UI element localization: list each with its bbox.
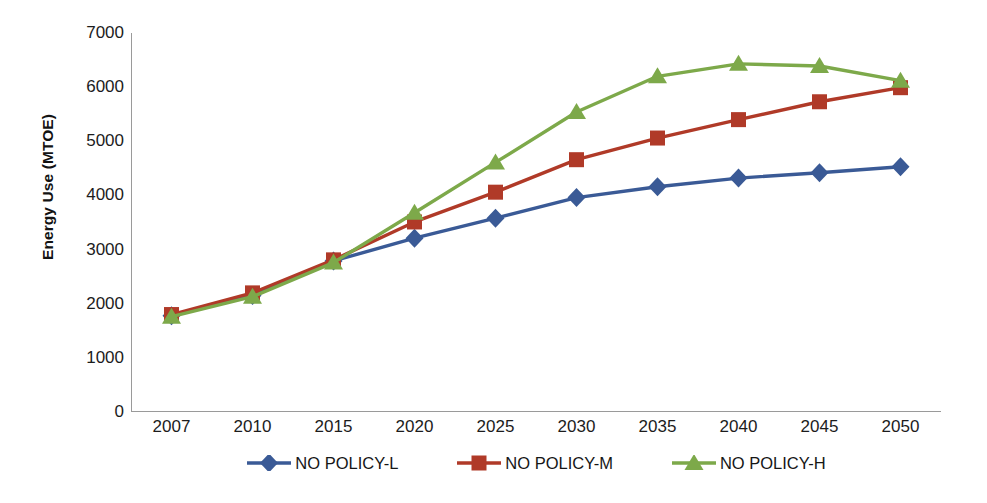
- y-tick-label: 5000: [58, 132, 124, 149]
- series-line: [172, 64, 901, 317]
- data-point-marker: [567, 103, 586, 119]
- data-point-marker: [260, 455, 278, 471]
- plot-area: [131, 33, 941, 412]
- legend-label: NO POLICY-M: [505, 454, 613, 473]
- legend-marker-triangle-icon: [671, 455, 717, 471]
- legend-marker-square-icon: [456, 455, 502, 471]
- data-point-marker: [488, 185, 503, 200]
- x-axis-tick-labels: 2007201020152020202520302035204020452050: [131, 418, 941, 448]
- y-tick-label: 6000: [58, 78, 124, 95]
- data-point-marker: [650, 131, 665, 146]
- y-tick-label: 0: [58, 403, 124, 420]
- y-tick-label: 7000: [58, 24, 124, 41]
- legend-label: NO POLICY-H: [720, 454, 826, 473]
- data-point-marker: [569, 152, 584, 167]
- x-tick-label: 2045: [775, 418, 865, 437]
- data-point-marker: [487, 209, 505, 228]
- y-axis-tick-labels: 70006000500040003000200010000: [54, 0, 124, 503]
- x-tick-label: 2015: [289, 418, 379, 437]
- x-tick-label: 2020: [370, 418, 460, 437]
- data-point-marker: [649, 177, 667, 196]
- x-tick-label: 2035: [613, 418, 703, 437]
- data-point-marker: [472, 456, 487, 471]
- legend-marker-diamond-icon: [246, 455, 292, 471]
- x-tick-label: 2050: [856, 418, 946, 437]
- chart-legend: NO POLICY-LNO POLICY-MNO POLICY-H: [131, 449, 941, 477]
- x-tick-label: 2030: [532, 418, 622, 437]
- energy-use-line-chart: Energy Use (MTOE) 7000600050004000300020…: [0, 0, 987, 503]
- data-point-marker: [730, 169, 748, 188]
- x-tick-label: 2040: [694, 418, 784, 437]
- legend-item-no-policy-l[interactable]: NO POLICY-L: [246, 454, 398, 473]
- y-tick-label: 4000: [58, 186, 124, 203]
- series-no-policy-l: [163, 157, 910, 325]
- series-line: [172, 167, 901, 316]
- y-tick-label: 1000: [58, 349, 124, 366]
- data-point-marker: [406, 229, 424, 248]
- x-tick-label: 2025: [451, 418, 541, 437]
- x-tick-label: 2007: [127, 418, 217, 437]
- legend-label: NO POLICY-L: [295, 454, 398, 473]
- data-point-marker: [486, 153, 505, 169]
- data-point-marker: [731, 112, 746, 127]
- legend-item-no-policy-m[interactable]: NO POLICY-M: [456, 454, 613, 473]
- data-point-marker: [892, 157, 910, 176]
- y-tick-label: 2000: [58, 295, 124, 312]
- data-point-marker: [812, 94, 827, 109]
- x-tick-label: 2010: [208, 418, 298, 437]
- figure-caption: [131, 485, 921, 503]
- data-point-marker: [811, 163, 829, 182]
- y-tick-label: 3000: [58, 241, 124, 258]
- legend-item-no-policy-h[interactable]: NO POLICY-H: [671, 454, 826, 473]
- series-layer: [131, 33, 941, 412]
- series-line: [172, 88, 901, 315]
- data-point-marker: [568, 188, 586, 207]
- data-point-marker: [405, 204, 424, 220]
